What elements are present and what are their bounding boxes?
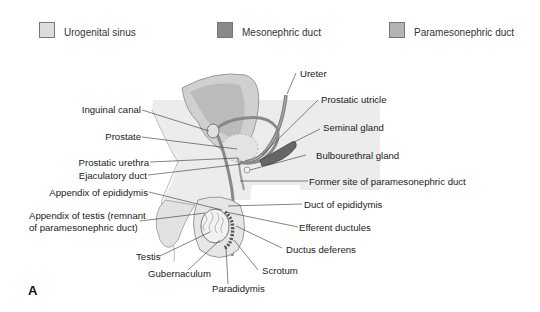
label-bulbourethral-gland: Bulbourethral gland	[316, 150, 399, 161]
bulbourethral-gland	[244, 167, 250, 173]
label-seminal-gland: Seminal gland	[323, 122, 384, 133]
label-paradidymis: Paradidymis	[212, 283, 265, 294]
label-gubernaculum: Gubernaculum	[148, 268, 211, 279]
label-testis: Testis	[136, 251, 161, 262]
label-appendix-of-epididymis: Appendix of epididymis	[49, 187, 148, 198]
label-duct-of-epididymis: Duct of epididymis	[304, 199, 382, 210]
label-scrotum: Scrotum	[262, 265, 298, 276]
label-efferent-ductules: Efferent ductules	[299, 222, 371, 233]
label-appendix-of-testis-1: Appendix of testis (remnant	[29, 210, 146, 221]
label-prostate: Prostate	[105, 131, 141, 142]
panel-letter: A	[28, 283, 37, 298]
label-former-site: Former site of paramesonephric duct	[309, 176, 466, 187]
label-ductus-deferens: Ductus deferens	[286, 244, 356, 255]
label-ureter: Ureter	[300, 68, 327, 79]
label-inguinal-canal: Inguinal canal	[82, 104, 141, 115]
label-appendix-of-testis-2: of paramesonephric duct)	[29, 222, 138, 233]
penis	[156, 200, 195, 248]
label-prostatic-utricle: Prostatic utricle	[321, 94, 387, 105]
label-ejaculatory-duct: Ejaculatory duct	[79, 170, 147, 181]
label-prostatic-urethra: Prostatic urethra	[79, 157, 149, 168]
